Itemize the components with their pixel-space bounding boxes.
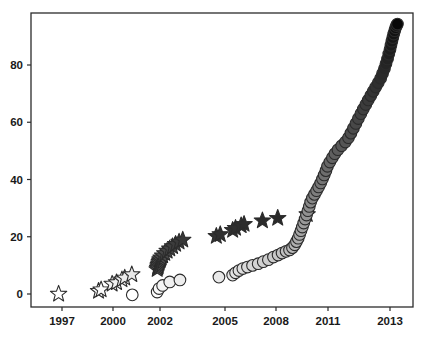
x-tick-label: 2005 bbox=[212, 315, 238, 327]
x-tick-label: 2002 bbox=[147, 315, 173, 327]
y-tick-label: 60 bbox=[10, 116, 23, 128]
x-tick-label: 2011 bbox=[316, 315, 342, 327]
x-tick-label: 2013 bbox=[377, 315, 403, 327]
x-tick-label: 2000 bbox=[100, 315, 126, 327]
data-point-circle bbox=[126, 289, 138, 301]
chart-figure: 1997200020022005200820112013020406080 bbox=[0, 0, 426, 338]
y-tick-label: 40 bbox=[10, 174, 23, 186]
data-point-circle bbox=[213, 271, 225, 283]
data-point-circle bbox=[392, 18, 404, 30]
plot-background bbox=[0, 0, 426, 338]
data-point-circle bbox=[174, 274, 186, 286]
x-tick-label: 1997 bbox=[49, 315, 75, 327]
data-point-circle bbox=[164, 276, 176, 288]
x-tick-label: 2008 bbox=[263, 315, 289, 327]
y-tick-label: 20 bbox=[10, 231, 23, 243]
y-tick-label: 0 bbox=[17, 288, 23, 300]
scatter-plot: 1997200020022005200820112013020406080 bbox=[0, 0, 426, 338]
y-tick-label: 80 bbox=[10, 59, 23, 71]
